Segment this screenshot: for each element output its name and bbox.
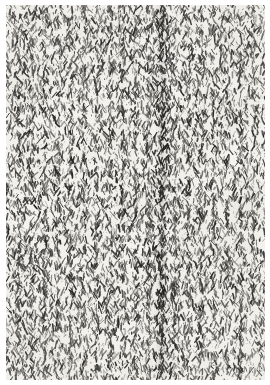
texture-field-canvas [0,0,270,385]
image-root: Dense allover field of small dark stroke… [0,0,270,385]
